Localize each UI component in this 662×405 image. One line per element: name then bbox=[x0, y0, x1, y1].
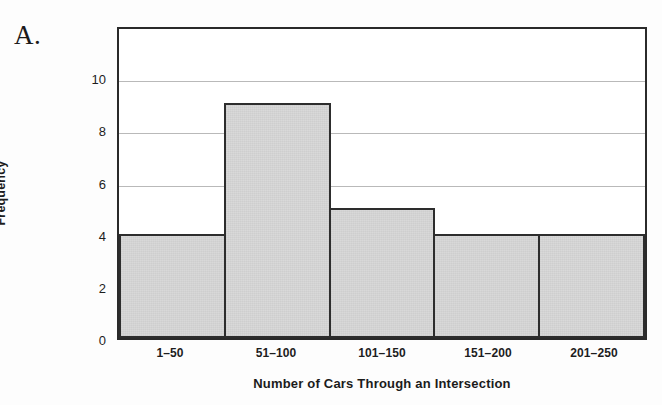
y-axis-tick-label: 6 bbox=[72, 178, 106, 191]
x-axis-tick-label: 151–200 bbox=[435, 346, 541, 360]
bar bbox=[538, 234, 645, 338]
y-axis-title: Frequency bbox=[0, 133, 8, 253]
y-axis-tick-label: 10 bbox=[72, 73, 106, 86]
x-axis-title: Number of Cars Through an Intersection bbox=[117, 376, 647, 391]
x-axis-tick-label: 101–150 bbox=[329, 346, 435, 360]
y-axis-tick-label: 8 bbox=[72, 125, 106, 138]
plot-area bbox=[117, 27, 647, 340]
bar bbox=[433, 234, 540, 338]
x-axis-tick-label: 1–50 bbox=[117, 346, 223, 360]
bar bbox=[329, 208, 436, 338]
y-axis-tick-labels: 0246810 bbox=[72, 0, 106, 405]
bar bbox=[119, 234, 226, 338]
x-axis-tick-label: 201–250 bbox=[541, 346, 647, 360]
bar bbox=[224, 103, 331, 338]
x-axis-tick-label: 51–100 bbox=[223, 346, 329, 360]
panel-letter: A. bbox=[14, 22, 41, 49]
x-axis-tick-labels: 1–5051–100101–150151–200201–250 bbox=[117, 346, 647, 360]
y-axis-tick-label: 4 bbox=[72, 230, 106, 243]
y-axis-tick-label: 2 bbox=[72, 282, 106, 295]
y-axis-tick-label: 0 bbox=[72, 334, 106, 347]
bar-series bbox=[119, 29, 645, 338]
histogram-figure: A. Frequency 0246810 1–5051–100101–15015… bbox=[0, 0, 662, 405]
